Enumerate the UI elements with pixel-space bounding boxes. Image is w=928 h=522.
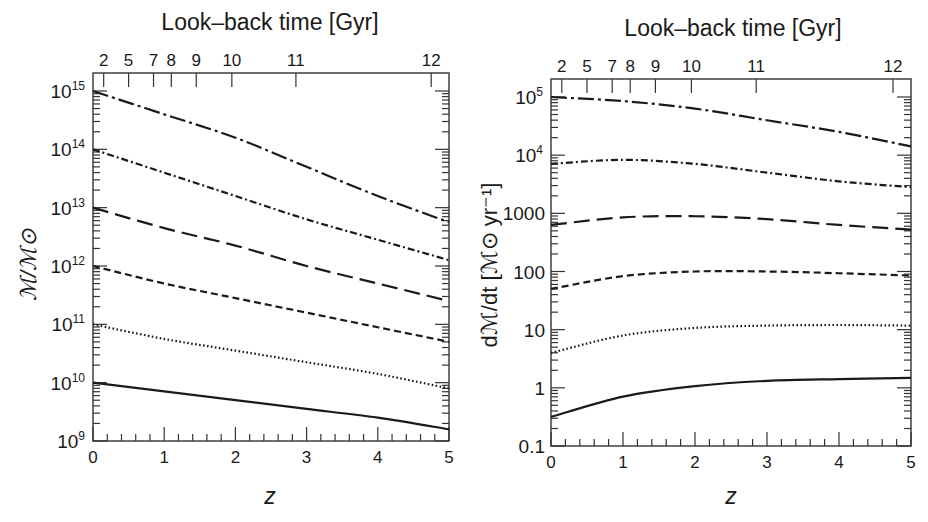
x-tick-label: 3 bbox=[302, 448, 311, 467]
y-tick-label: 1013 bbox=[51, 196, 86, 219]
right-top-axis-title: Look–back time [Gyr] bbox=[624, 15, 841, 41]
top-tick-label: 5 bbox=[582, 57, 591, 76]
right-curves bbox=[551, 97, 911, 417]
left-top-axis-title: Look–back time [Gyr] bbox=[161, 9, 378, 35]
y-tick-label: 105 bbox=[515, 85, 543, 108]
right-panel-accretion-rate-vs-redshift: Look–back time [Gyr] 25789101112 0.11101… bbox=[477, 15, 916, 509]
curve-long-dash-dot bbox=[551, 97, 911, 146]
x-tick-label: 5 bbox=[444, 448, 453, 467]
curve-long-dash bbox=[551, 216, 911, 230]
left-panel-mass-vs-redshift: Look–back time [Gyr] 25789101112 1091010… bbox=[16, 9, 454, 509]
left-curves bbox=[93, 91, 449, 429]
y-tick-label: 0.1 bbox=[519, 436, 545, 457]
top-tick-label: 11 bbox=[747, 57, 765, 76]
chart-figure: Look–back time [Gyr] 25789101112 1091010… bbox=[0, 0, 928, 522]
y-tick-label: 10 bbox=[524, 320, 545, 341]
right-x-axis-ticks: 012345 bbox=[546, 432, 915, 472]
top-tick-label: 2 bbox=[99, 51, 108, 70]
curve-dotted bbox=[93, 324, 449, 388]
curve-dash-dot bbox=[551, 160, 911, 187]
top-tick-label: 7 bbox=[607, 57, 616, 76]
top-tick-label: 10 bbox=[682, 57, 701, 76]
x-tick-label: 2 bbox=[690, 453, 699, 472]
x-tick-label: 3 bbox=[762, 453, 771, 472]
right-top-axis-ticks: 25789101112 bbox=[557, 57, 902, 93]
top-tick-label: 12 bbox=[422, 51, 441, 70]
top-tick-label: 8 bbox=[625, 57, 634, 76]
right-x-axis-label: z bbox=[724, 483, 737, 509]
left-top-axis-ticks: 25789101112 bbox=[99, 51, 441, 87]
y-tick-label: 109 bbox=[57, 429, 85, 452]
left-y-axis-ticks: 109101010111012101310141015 bbox=[51, 79, 450, 452]
x-tick-label: 0 bbox=[88, 448, 97, 467]
left-x-axis-label: z bbox=[263, 483, 276, 509]
left-plot-frame bbox=[93, 73, 449, 441]
x-tick-label: 4 bbox=[373, 448, 382, 467]
y-tick-label: 104 bbox=[515, 143, 543, 166]
x-tick-label: 1 bbox=[618, 453, 627, 472]
y-tick-label: 1000 bbox=[503, 203, 545, 224]
x-tick-label: 1 bbox=[159, 448, 168, 467]
top-tick-label: 12 bbox=[884, 57, 903, 76]
y-tick-label: 1015 bbox=[51, 79, 86, 102]
curve-dotted bbox=[551, 325, 911, 353]
top-tick-label: 8 bbox=[167, 51, 176, 70]
curve-long-dash bbox=[93, 208, 449, 301]
curve-solid bbox=[93, 383, 449, 430]
right-plot-frame bbox=[551, 79, 911, 446]
x-tick-label: 5 bbox=[906, 453, 915, 472]
top-tick-label: 5 bbox=[124, 51, 133, 70]
curve-dash-dot bbox=[93, 149, 449, 260]
y-tick-label: 1012 bbox=[51, 254, 86, 277]
top-tick-label: 10 bbox=[222, 51, 241, 70]
curve-solid bbox=[551, 378, 911, 417]
curve-short-dash bbox=[551, 271, 911, 289]
x-tick-label: 0 bbox=[546, 453, 555, 472]
left-x-axis-ticks: 012345 bbox=[88, 427, 453, 467]
y-tick-label: 1010 bbox=[51, 371, 86, 394]
y-tick-label: 1 bbox=[534, 378, 545, 399]
y-tick-label: 1011 bbox=[51, 312, 85, 335]
x-tick-label: 2 bbox=[231, 448, 240, 467]
curve-short-dash bbox=[93, 266, 449, 342]
top-tick-label: 9 bbox=[651, 57, 660, 76]
curve-long-dash-dot bbox=[93, 91, 449, 222]
y-tick-label: 100 bbox=[513, 262, 545, 283]
top-tick-label: 7 bbox=[149, 51, 158, 70]
x-tick-label: 4 bbox=[834, 453, 843, 472]
left-y-axis-label: ℳ/ℳ⊙ bbox=[16, 228, 41, 301]
right-y-axis-label: dℳ/dt [ℳ⊙ yr⁻¹] bbox=[477, 183, 502, 348]
top-tick-label: 9 bbox=[192, 51, 201, 70]
y-tick-label: 1014 bbox=[51, 137, 86, 160]
top-tick-label: 2 bbox=[557, 57, 566, 76]
top-tick-label: 11 bbox=[287, 51, 305, 70]
